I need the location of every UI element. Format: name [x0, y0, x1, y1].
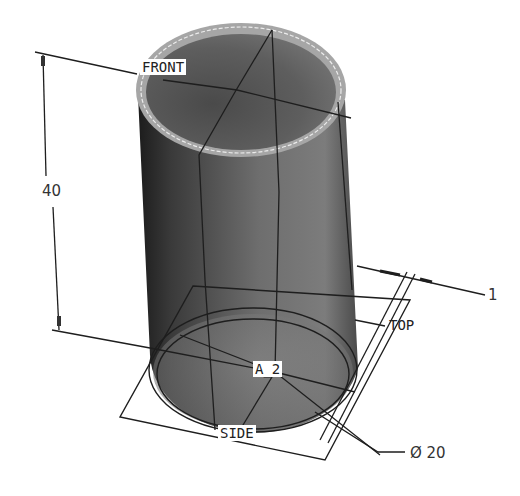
dimension-height-value[interactable]: 40: [42, 184, 61, 199]
datum-axis-label[interactable]: A_2: [253, 361, 282, 377]
datum-label-top[interactable]: TOP: [389, 318, 414, 332]
datum-label-front[interactable]: FRONT: [140, 59, 186, 75]
diameter-leader: [315, 412, 405, 452]
cad-viewport[interactable]: [0, 0, 520, 496]
dimension-height[interactable]: [35, 52, 150, 348]
cylinder-body[interactable]: [136, 23, 358, 433]
datum-label-side[interactable]: SIDE: [218, 425, 256, 441]
dimension-diameter-value[interactable]: Ø 20: [410, 446, 446, 461]
dimension-thickness-value[interactable]: 1: [488, 288, 498, 303]
inner-opening: [146, 34, 336, 150]
